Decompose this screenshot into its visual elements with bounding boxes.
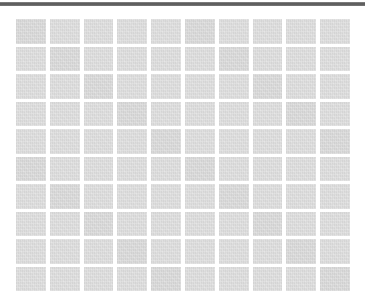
- grid-tile: [286, 239, 316, 264]
- grid-tile: [84, 19, 114, 44]
- grid-tile: [151, 129, 181, 154]
- grid-tile: [320, 47, 350, 72]
- grid-tile: [117, 212, 147, 237]
- grid-tile: [117, 74, 147, 99]
- grid-tile: [320, 157, 350, 182]
- grid-tile: [219, 184, 249, 209]
- grid-tile: [84, 47, 114, 72]
- grid-tile: [253, 184, 283, 209]
- grid-tile: [50, 74, 80, 99]
- grid-tile: [84, 157, 114, 182]
- grid-tile: [253, 239, 283, 264]
- grid-tile: [185, 102, 215, 127]
- grid-tile: [320, 212, 350, 237]
- grid-tile: [286, 129, 316, 154]
- grid-tile: [286, 184, 316, 209]
- grid-tile: [219, 102, 249, 127]
- grid-tile: [50, 19, 80, 44]
- grid-tile: [151, 102, 181, 127]
- grid-tile: [151, 47, 181, 72]
- grid-tile: [50, 239, 80, 264]
- grid-tile: [286, 102, 316, 127]
- grid-tile: [253, 157, 283, 182]
- grid-tile: [84, 239, 114, 264]
- grid-tile: [151, 267, 181, 292]
- tile-grid: [16, 19, 350, 291]
- grid-tile: [50, 212, 80, 237]
- grid-tile: [185, 74, 215, 99]
- grid-tile: [185, 19, 215, 44]
- grid-tile: [253, 267, 283, 292]
- grid-tile: [253, 212, 283, 237]
- grid-tile: [16, 239, 46, 264]
- grid-tile: [84, 102, 114, 127]
- grid-tile: [286, 267, 316, 292]
- grid-tile: [219, 129, 249, 154]
- grid-tile: [16, 102, 46, 127]
- grid-tile: [185, 239, 215, 264]
- grid-tile: [219, 239, 249, 264]
- grid-tile: [185, 267, 215, 292]
- grid-tile: [286, 157, 316, 182]
- grid-tile: [16, 267, 46, 292]
- grid-tile: [50, 184, 80, 209]
- grid-tile: [117, 129, 147, 154]
- grid-tile: [253, 47, 283, 72]
- grid-tile: [320, 74, 350, 99]
- grid-tile: [219, 74, 249, 99]
- grid-tile: [185, 184, 215, 209]
- grid-tile: [16, 184, 46, 209]
- grid-tile: [320, 102, 350, 127]
- grid-tile: [16, 74, 46, 99]
- grid-tile: [286, 212, 316, 237]
- grid-tile: [185, 157, 215, 182]
- grid-tile: [286, 74, 316, 99]
- grid-tile: [84, 129, 114, 154]
- grid-tile: [117, 102, 147, 127]
- grid-tile: [151, 19, 181, 44]
- grid-tile: [219, 267, 249, 292]
- grid-tile: [16, 129, 46, 154]
- grid-tile: [320, 19, 350, 44]
- grid-tile: [320, 239, 350, 264]
- grid-tile: [253, 129, 283, 154]
- grid-tile: [151, 212, 181, 237]
- grid-tile: [50, 47, 80, 72]
- grid-tile: [50, 129, 80, 154]
- grid-tile: [151, 74, 181, 99]
- grid-tile: [219, 47, 249, 72]
- grid-tile: [16, 212, 46, 237]
- grid-tile: [253, 74, 283, 99]
- grid-tile: [253, 102, 283, 127]
- grid-tile: [219, 157, 249, 182]
- grid-tile: [50, 157, 80, 182]
- grid-tile: [84, 74, 114, 99]
- grid-tile: [117, 19, 147, 44]
- grid-tile: [117, 157, 147, 182]
- grid-tile: [50, 267, 80, 292]
- grid-tile: [117, 267, 147, 292]
- grid-tile: [117, 184, 147, 209]
- grid-tile: [84, 267, 114, 292]
- grid-tile: [151, 239, 181, 264]
- grid-tile: [219, 212, 249, 237]
- grid-tile: [286, 47, 316, 72]
- grid-tile: [185, 212, 215, 237]
- grid-tile: [84, 212, 114, 237]
- grid-tile: [151, 184, 181, 209]
- grid-tile: [286, 19, 316, 44]
- grid-tile: [16, 157, 46, 182]
- grid-tile: [50, 102, 80, 127]
- grid-tile: [84, 184, 114, 209]
- grid-tile: [219, 19, 249, 44]
- grid-tile: [320, 184, 350, 209]
- grid-tile: [16, 47, 46, 72]
- grid-tile: [253, 19, 283, 44]
- grid-tile: [320, 129, 350, 154]
- grid-tile: [16, 19, 46, 44]
- top-rule-divider: [0, 2, 365, 6]
- grid-tile: [117, 47, 147, 72]
- grid-tile: [117, 239, 147, 264]
- grid-tile: [185, 47, 215, 72]
- grid-tile: [151, 157, 181, 182]
